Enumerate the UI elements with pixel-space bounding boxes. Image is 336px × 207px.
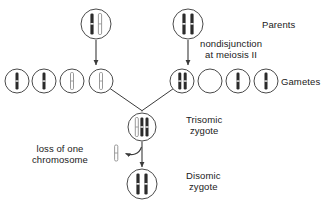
gamete-cell-3 (60, 69, 84, 93)
nondisjunction-label: nondisjunction at meiosis II (200, 38, 262, 60)
disomic-zygote-label-line1: Disomic (186, 170, 220, 181)
chromosome-dark (90, 14, 93, 35)
chromosome-light (100, 73, 103, 90)
chromosome-dark (182, 14, 185, 35)
trisomic-zygote-cell (128, 113, 156, 141)
connector-group (96, 40, 188, 167)
chromosome-light (98, 14, 101, 35)
fusion-line-right (142, 89, 174, 112)
chromosome-loss-label-line1: loss of one (32, 143, 88, 154)
chromosome-dark (178, 73, 181, 90)
nondisjunction-label-line1: nondisjunction (200, 38, 262, 49)
chromosome-dark (140, 118, 143, 137)
gamete-cell-4 (89, 69, 113, 93)
trisomic-zygote-label-line2: zygote (186, 125, 222, 136)
fusion-line-left (110, 89, 143, 112)
parent-cell-right (173, 9, 203, 39)
parent-cell-left (81, 9, 111, 39)
gamete-cell-7 (226, 69, 250, 93)
chromosome-dark (237, 73, 240, 90)
gamete-cell-1 (5, 69, 29, 93)
chromosome-dark (190, 14, 193, 35)
chromosome-light (135, 118, 138, 137)
disomic-zygote-label: Disomic zygote (186, 170, 220, 192)
gamete-cell-5 (170, 69, 194, 93)
gametes-label: Gametes (281, 76, 320, 87)
trisomic-zygote-label: Trisomic zygote (186, 114, 222, 136)
nondisjunction-label-line2: at meiosis II (200, 49, 262, 60)
disomic-zygote-cell (127, 169, 157, 199)
parents-label: Parents (262, 19, 295, 30)
disomic-zygote-label-line2: zygote (186, 181, 220, 192)
meiosis-nondisjunction-diagram: Parents nondisjunction at meiosis II Gam… (0, 0, 336, 207)
trisomic-zygote-label-line1: Trisomic (186, 114, 222, 125)
chromosome-loss-label-line2: chromosome (32, 154, 88, 165)
chromosome-dark (265, 73, 268, 90)
lost-chromosome (115, 145, 118, 161)
gamete-cell-8 (254, 69, 278, 93)
chromosome-dark (144, 174, 147, 195)
chromosome-dark (146, 118, 149, 137)
chromosome-loss-label: loss of one chromosome (32, 143, 88, 165)
chromosome-dark (16, 73, 19, 90)
chromosome-light (71, 73, 74, 90)
gamete-cell-2 (32, 69, 56, 93)
gamete-cell-6-empty (198, 69, 222, 93)
diagram-canvas (0, 0, 336, 207)
chromosome-dark (43, 73, 46, 90)
chromosome-dark (184, 73, 187, 90)
chromosome-dark (136, 174, 139, 195)
chromosome-loss-arrow (126, 147, 142, 155)
